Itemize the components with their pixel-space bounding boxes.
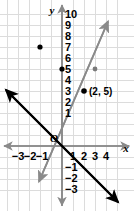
x-axis-tick-labels: −3 −2 −1 1 2 3 4 [12,150,110,162]
y-tick-label-1: 1 [65,107,71,119]
x-tick-label-neg2: −2 [24,150,37,162]
dark-line-point-b [59,66,64,71]
x-tick-label-neg3: −3 [12,150,25,162]
coordinate-graph-figure: 10 9 8 7 6 5 4 3 2 1 −1 −2 −3 −3 −2 −1 1… [0,0,134,211]
y-tick-label-neg3: −3 [65,183,78,195]
graph-canvas: 10 9 8 7 6 5 4 3 2 1 −1 −2 −3 −3 −2 −1 1… [0,0,134,211]
origin-label: O [50,132,58,144]
x-tick-label-4: 4 [103,150,110,162]
x-tick-label-3: 3 [92,150,98,162]
x-tick-label-neg1: −1 [36,150,49,162]
x-tick-label-1: 1 [70,150,76,162]
intersection-point [81,88,87,94]
dark-line-point-a [37,44,42,49]
intersection-point-label: (2, 5) [89,86,112,97]
y-axis-label: y [48,4,55,16]
gray-line-point [93,67,98,72]
x-axis-label: x [122,142,129,154]
x-tick-label-2: 2 [81,150,87,162]
